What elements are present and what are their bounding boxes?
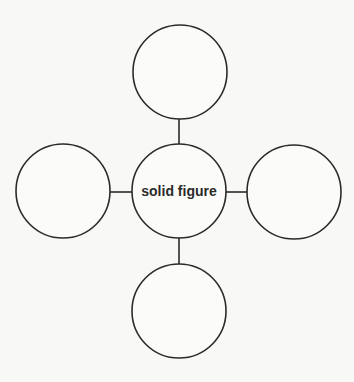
center-label: solid figure	[141, 183, 217, 199]
branch-node-left	[16, 144, 110, 238]
branch-node-right	[247, 145, 341, 239]
concept-web-diagram: solid figure	[0, 0, 354, 382]
branch-node-bottom	[132, 264, 226, 358]
branch-node-top	[133, 25, 227, 119]
center-node: solid figure	[132, 144, 226, 238]
